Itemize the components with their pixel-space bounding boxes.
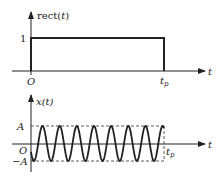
y-axis-label: rect(t) bbox=[37, 10, 69, 21]
amp-label: A bbox=[16, 121, 24, 132]
rect-panel: rect(t) 1 O t tp bbox=[12, 10, 213, 88]
level-one-label: 1 bbox=[20, 33, 26, 44]
origin-label: O bbox=[19, 145, 27, 156]
origin-label: O bbox=[27, 76, 35, 87]
tp-label: tp bbox=[160, 75, 169, 88]
y-axis-label: x(t) bbox=[36, 96, 54, 107]
rect-pulse-curve bbox=[31, 38, 164, 71]
tp-label: tp bbox=[166, 146, 175, 159]
sine-panel: x(t) A O −A t tp bbox=[12, 95, 213, 172]
neg-amp-label: −A bbox=[12, 156, 28, 167]
t-axis-label: t bbox=[208, 66, 213, 77]
figure: rect(t) 1 O t tp x(t) A O −A t tp bbox=[0, 0, 218, 182]
t-axis-label: t bbox=[208, 139, 213, 150]
